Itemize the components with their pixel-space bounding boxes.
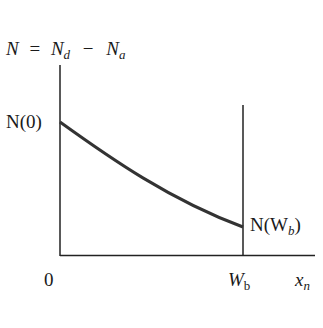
wb-tick-label: Wb bbox=[228, 270, 250, 289]
x-axis-title: xn bbox=[295, 270, 310, 289]
n0-label: N(0) bbox=[6, 112, 42, 131]
y-axis-title: N = Nd − Na bbox=[6, 39, 126, 58]
minus-sign: − bbox=[83, 38, 94, 59]
n-symbol: N bbox=[6, 38, 19, 59]
nd-term: Nd bbox=[51, 38, 70, 59]
doping-curve bbox=[60, 122, 243, 227]
na-term: Na bbox=[106, 38, 125, 59]
origin-tick-label: 0 bbox=[44, 270, 54, 289]
equals-sign: = bbox=[29, 38, 40, 59]
nwb-label: N(Wb) bbox=[250, 215, 301, 234]
